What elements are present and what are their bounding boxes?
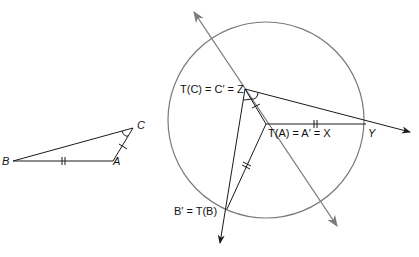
label-Z: T(C) = C′ = Z xyxy=(180,84,244,95)
grey-bisector-line xyxy=(194,12,337,226)
label-X: T(A) = A′ = X xyxy=(268,128,331,139)
image-figure xyxy=(220,89,410,243)
angle-arc-icon xyxy=(122,131,128,136)
label-A: A xyxy=(113,156,120,167)
label-B: B xyxy=(2,156,9,167)
label-C: C xyxy=(137,120,145,131)
label-Bprime: B′ = T(B) xyxy=(174,206,217,217)
label-Y: Y xyxy=(368,128,375,139)
isometry-diagram xyxy=(0,0,419,257)
ray-ZB xyxy=(220,89,245,243)
